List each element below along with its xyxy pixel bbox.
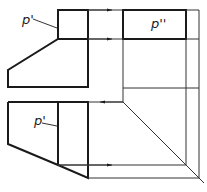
label-p-prime-front: p' bbox=[21, 12, 34, 27]
projection-lines-front-to-side bbox=[88, 10, 199, 39]
label-side-p: p'' bbox=[150, 16, 166, 31]
top-view bbox=[8, 102, 88, 178]
projection-drawing: p' p'' p' bbox=[0, 0, 207, 192]
label-top-p: p' bbox=[33, 113, 57, 128]
front-view bbox=[8, 10, 88, 87]
projection-lines-top bbox=[58, 102, 199, 178]
side-construction-lines bbox=[123, 10, 199, 178]
label-p-double-prime: p'' bbox=[150, 16, 166, 31]
miter-line bbox=[123, 102, 204, 183]
label-front-p: p' bbox=[21, 12, 57, 28]
label-p-prime-top: p' bbox=[33, 113, 46, 128]
